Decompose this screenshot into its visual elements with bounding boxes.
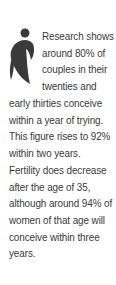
callout-line: years. — [9, 246, 35, 260]
callout-line: although around 94% of — [9, 196, 112, 210]
callout-line: Fertility does decrease — [9, 163, 107, 177]
callout-line: within two years. — [9, 146, 81, 160]
callout-line: around 80% of — [42, 46, 105, 60]
person-figure-icon — [8, 28, 36, 86]
callout-line: early thirties conceive — [9, 96, 102, 110]
callout-line: after the age of 35, — [9, 180, 90, 194]
callout-line: This figure rises to 92% — [9, 129, 110, 143]
callout-line: Research shows — [42, 29, 114, 43]
callout-line: women of that age will — [9, 213, 105, 227]
callout-line: couples in their — [42, 62, 107, 76]
callout-line: within a year of trying. — [9, 113, 103, 127]
callout-line: conceive within three — [9, 230, 100, 244]
callout-line: twenties and — [42, 79, 97, 93]
